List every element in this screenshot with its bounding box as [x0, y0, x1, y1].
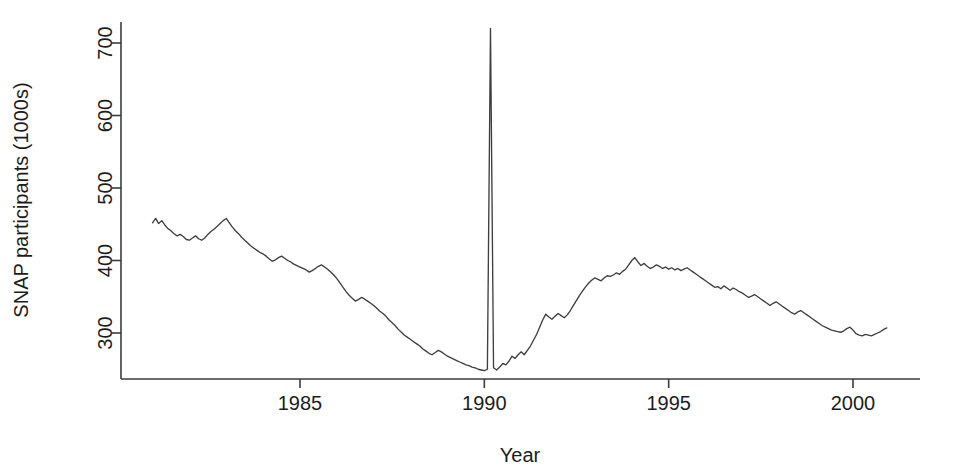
- x-tick-label: 1985: [278, 392, 323, 414]
- y-axis-title: SNAP participants (1000s): [10, 82, 32, 317]
- x-tick-label: 1990: [462, 392, 507, 414]
- x-tick-label: 1995: [646, 392, 691, 414]
- x-axis-ticks: 1985199019952000: [278, 379, 876, 414]
- x-tick-label: 2000: [831, 392, 876, 414]
- chart-container: 300400500600700 1985199019952000 Year SN…: [0, 0, 960, 472]
- y-tick-label: 500: [94, 171, 116, 204]
- y-axis-ticks: 300400500600700: [94, 26, 121, 349]
- line-chart: 300400500600700 1985199019952000 Year SN…: [0, 0, 960, 472]
- x-axis-title: Year: [500, 444, 541, 466]
- data-series-line: [153, 29, 887, 371]
- y-tick-label: 700: [94, 26, 116, 59]
- y-tick-label: 300: [94, 316, 116, 349]
- y-tick-label: 400: [94, 244, 116, 277]
- y-tick-label: 600: [94, 99, 116, 132]
